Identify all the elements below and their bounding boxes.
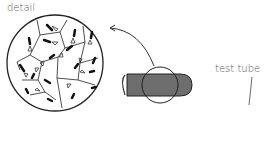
test-tube	[123, 67, 193, 103]
magnify-arrow	[110, 28, 154, 66]
detail-magnified-circle	[7, 15, 103, 111]
test-tube-label: test tube	[215, 63, 260, 74]
detail-label: detail	[7, 2, 35, 13]
test-tube-pointer-line	[249, 77, 252, 105]
diagram	[0, 0, 270, 159]
